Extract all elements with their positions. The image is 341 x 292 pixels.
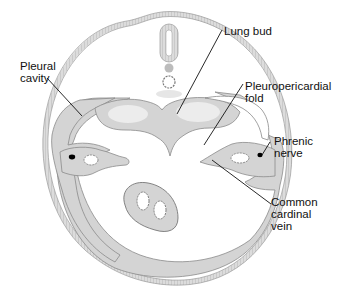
label-pleural-cavity: Pleural cavity bbox=[20, 60, 56, 84]
label-phrenic-nerve: Phrenic nerve bbox=[274, 135, 313, 159]
lung-bud-left bbox=[108, 105, 148, 123]
left-common-cardinal-vein bbox=[84, 155, 98, 165]
right-common-cardinal-vein bbox=[231, 153, 249, 163]
neural-tube bbox=[160, 24, 178, 62]
dorsal-aorta bbox=[163, 76, 175, 88]
label-lung-bud: Lung bud bbox=[224, 25, 272, 37]
foregut-mesenchyme bbox=[156, 90, 182, 98]
lung-bud-right bbox=[176, 102, 220, 122]
label-pleuropericardial-fold: Pleuropericardial fold bbox=[245, 80, 331, 104]
lung-bud-region bbox=[95, 98, 240, 156]
label-common-cardinal-vein: Common cardinal vein bbox=[271, 196, 318, 232]
left-phrenic-nerve bbox=[69, 155, 75, 160]
heart bbox=[124, 182, 178, 231]
right-phrenic-nerve bbox=[257, 153, 262, 157]
notochord bbox=[165, 64, 174, 73]
